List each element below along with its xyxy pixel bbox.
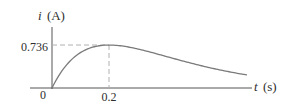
y-tick-label-peak: 0.736 [21,40,48,54]
x-axis-var: t [254,79,258,94]
x-axis-unit: (s) [263,79,277,94]
y-axis-label: i (A) [38,8,65,23]
x-axis-label: t (s) [254,79,277,94]
x-tick-label-peak: 0.2 [102,90,117,104]
x-tick-label-zero: 0 [40,88,46,102]
current-curve [52,45,247,88]
chart: i (A) 0.736 0 0.2 t (s) [0,0,290,109]
y-axis-var: i [38,8,42,23]
y-axis-unit: (A) [47,8,65,23]
